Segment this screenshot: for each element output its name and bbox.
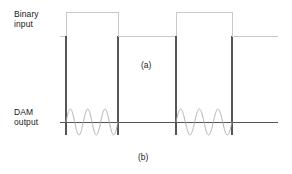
binary-input-trace: [60, 12, 278, 135]
dam-modulation-figure: Binary input DAM output (a) (b): [0, 0, 292, 174]
dam-output-trace: [60, 109, 278, 135]
waveform-plot: [0, 0, 292, 174]
